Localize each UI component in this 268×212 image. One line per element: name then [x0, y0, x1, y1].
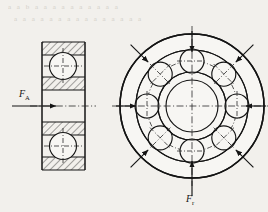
bleed-through-text-line2: a a a a a a a a a a a a a a a — [14, 15, 143, 23]
axial-force-subscript: A — [25, 94, 30, 101]
axial-force-label: FA — [19, 88, 30, 101]
radial-force-label: Fr — [186, 193, 194, 206]
radial-force-subscript: r — [192, 199, 194, 206]
bearing-figure: a a b a a a a a a a a a a a a a a a a a … — [0, 0, 268, 212]
drawing-canvas — [0, 0, 268, 212]
bearing-front-view — [112, 26, 268, 196]
bleed-through-text-line1: a a b a a a a a a a a a a — [8, 3, 120, 11]
bearing-section-view — [12, 42, 96, 170]
